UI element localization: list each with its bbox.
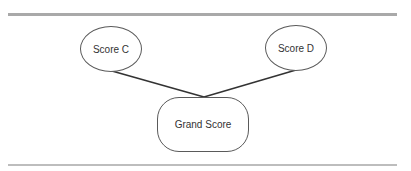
- node-grand-score: Grand Score: [157, 97, 249, 152]
- node-score-c-label: Score C: [93, 44, 129, 55]
- node-score-c: Score C: [80, 26, 142, 72]
- edge-score-d-to-grand-score: [204, 70, 296, 97]
- edge-score-c-to-grand-score: [112, 71, 204, 97]
- node-score-d-label: Score D: [278, 43, 314, 54]
- bottom-divider: [8, 164, 397, 166]
- node-grand-score-label: Grand Score: [175, 119, 232, 130]
- node-score-d: Score D: [265, 25, 327, 71]
